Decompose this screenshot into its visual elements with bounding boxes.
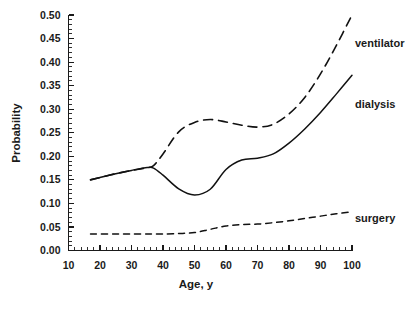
probability-vs-age-line-chart: 0.000.050.100.150.200.250.300.350.400.45… <box>0 0 416 311</box>
series-label-ventilator: ventilator <box>355 37 405 49</box>
x-axis-tick-labels: 102030405060708090100 <box>63 259 361 271</box>
x-tick-label: 60 <box>220 259 232 271</box>
x-tick-label: 20 <box>94 259 106 271</box>
y-tick-label: 0.10 <box>40 197 61 209</box>
y-tick-label: 0.05 <box>40 221 61 233</box>
x-tick-label: 90 <box>315 259 327 271</box>
x-axis-ticks <box>69 245 353 251</box>
x-tick-label: 70 <box>252 259 264 271</box>
data-series-group <box>91 15 352 234</box>
series-label-surgery: surgery <box>355 212 396 224</box>
series-line-dialysis <box>91 75 352 195</box>
y-tick-label: 0.00 <box>40 244 61 256</box>
y-tick-label: 0.20 <box>40 150 61 162</box>
x-axis-title: Age, y <box>179 278 214 290</box>
y-axis-ticks <box>69 15 75 251</box>
series-line-ventilator <box>91 15 352 180</box>
y-tick-label: 0.15 <box>40 173 61 185</box>
y-tick-label: 0.50 <box>40 9 61 21</box>
y-tick-label: 0.35 <box>40 79 61 91</box>
series-line-surgery <box>91 212 352 234</box>
y-tick-label: 0.30 <box>40 103 61 115</box>
y-tick-label: 0.25 <box>40 126 61 138</box>
y-axis-title: Probability <box>10 103 22 163</box>
x-tick-label: 100 <box>343 259 361 271</box>
x-tick-label: 80 <box>283 259 295 271</box>
series-label-dialysis: dialysis <box>355 98 395 110</box>
x-tick-label: 40 <box>157 259 169 271</box>
chart-figure: 0.000.050.100.150.200.250.300.350.400.45… <box>0 0 416 311</box>
y-tick-label: 0.40 <box>40 56 61 68</box>
x-tick-label: 10 <box>63 259 75 271</box>
x-tick-label: 50 <box>189 259 201 271</box>
y-axis-tick-labels: 0.000.050.100.150.200.250.300.350.400.45… <box>40 9 61 257</box>
y-tick-label: 0.45 <box>40 32 61 44</box>
plot-axes <box>69 15 353 251</box>
x-tick-label: 30 <box>126 259 138 271</box>
